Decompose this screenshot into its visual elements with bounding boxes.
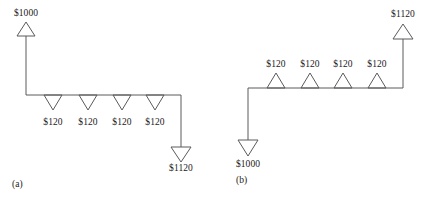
panel-a-inflow-label: $1000: [14, 8, 38, 19]
panel-a-periodic-label-3: $120: [112, 117, 131, 128]
panel-a-arrowhead-down-4: [146, 95, 164, 110]
panel-b-arrowhead-up-2: [301, 73, 319, 88]
panel-b: [238, 24, 413, 156]
cash-flow-diagram-svg: [0, 0, 423, 201]
panel-a-final-arrowhead-down: [171, 147, 191, 162]
panel-b-arrowhead-up-1: [267, 73, 285, 88]
panel-b-arrowhead-up-4: [368, 73, 386, 88]
panel-a-periodic-arrows: [44, 95, 164, 110]
panel-b-periodic-arrows: [267, 73, 386, 88]
panel-a-caption: (a): [12, 179, 23, 190]
panel-b-outflow-arrowhead-down: [238, 140, 258, 156]
panel-a-inflow-arrowhead-up: [17, 22, 35, 36]
panel-a-periodic-label-2: $120: [78, 117, 97, 128]
panel-a: [17, 22, 191, 162]
panel-a-arrowhead-down-3: [113, 95, 131, 110]
panel-b-arrowhead-up-3: [334, 73, 352, 88]
panel-b-periodic-label-4: $120: [367, 59, 386, 70]
panel-a-arrowhead-down-1: [44, 95, 62, 110]
panel-a-periodic-label-1: $120: [43, 117, 62, 128]
panel-b-periodic-label-3: $120: [333, 59, 352, 70]
panel-b-caption: (b): [236, 175, 247, 186]
panel-a-arrowhead-down-2: [79, 95, 97, 110]
panel-b-final-arrowhead-up: [393, 24, 413, 39]
panel-a-final-label: $1120: [169, 163, 193, 174]
panel-a-periodic-label-4: $120: [145, 117, 164, 128]
panel-b-periodic-label-2: $120: [300, 59, 319, 70]
panel-b-final-label: $1120: [391, 9, 415, 20]
panel-b-outflow-label: $1000: [236, 159, 260, 170]
panel-b-periodic-label-1: $120: [266, 59, 285, 70]
